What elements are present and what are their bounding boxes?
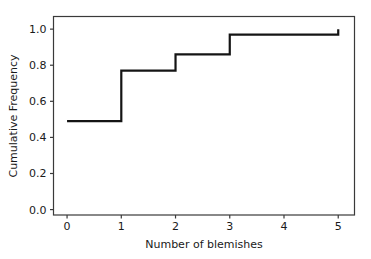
y-tick-label: 0.2: [29, 167, 47, 180]
x-tick-label: 0: [64, 220, 71, 233]
y-tick-label: 0.0: [29, 204, 47, 217]
x-tick-label: 3: [226, 220, 233, 233]
y-tick-label: 0.8: [29, 59, 47, 72]
y-tick-label: 0.6: [29, 95, 47, 108]
x-axis-title: Number of blemishes: [145, 238, 263, 251]
x-tick-label: 2: [172, 220, 179, 233]
x-tick-label: 5: [335, 220, 342, 233]
ecdf-step-plot: 012345 0.00.20.40.60.81.0 Number of blem…: [0, 0, 371, 259]
y-tick-label: 0.4: [29, 131, 47, 144]
y-tick-label: 1.0: [29, 23, 47, 36]
figure-background: [0, 0, 371, 259]
x-tick-label: 1: [118, 220, 125, 233]
x-tick-label: 4: [280, 220, 287, 233]
y-axis-title: Cumulative Frequency: [7, 54, 20, 178]
chart-figure: 012345 0.00.20.40.60.81.0 Number of blem…: [0, 0, 371, 259]
